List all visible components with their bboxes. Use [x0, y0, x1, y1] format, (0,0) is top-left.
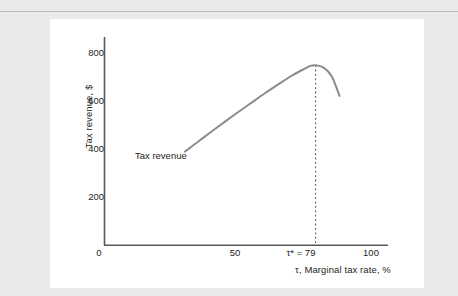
x-tick-label-50: 50	[230, 247, 241, 258]
y-tick-label-200: 200	[64, 191, 104, 202]
y-tick-label-800: 800	[64, 47, 104, 58]
y-tick-label-600: 600	[64, 95, 104, 106]
x-tick-label-0: 0	[96, 247, 101, 258]
x-tick-label-100: 100	[363, 247, 379, 258]
plot-area: Tax revenue, $ 800 600 400 200 0 50 τ* =…	[50, 19, 424, 288]
tax-revenue-curve	[185, 65, 340, 152]
x-axis-title: τ, Marginal tax rate, %	[243, 264, 443, 275]
chart-card: Tax revenue, $ 800 600 400 200 0 50 τ* =…	[50, 19, 424, 288]
laffer-curve-figure: Tax revenue, $ 800 600 400 200 0 50 τ* =…	[0, 0, 458, 296]
x-tick-label-optimal-tax-rate: τ* = 79	[287, 247, 316, 258]
series-label-tax-revenue: Tax revenue	[135, 150, 187, 161]
y-axis-title: Tax revenue, $	[83, 57, 94, 177]
page-top-divider	[0, 11, 458, 12]
y-tick-label-400: 400	[64, 143, 104, 154]
